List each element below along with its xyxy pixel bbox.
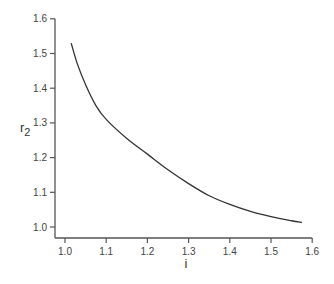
y-tick-label: 1.2: [33, 152, 47, 163]
x-axis: 1.01.11.21.31.41.51.6: [55, 238, 320, 257]
y-tick-label: 1.5: [33, 48, 47, 59]
x-tick-label: 1.1: [99, 246, 113, 257]
data-line: [71, 43, 302, 222]
x-axis-label: i: [185, 256, 188, 271]
y-tick-label: 1.1: [33, 187, 47, 198]
x-tick-label: 1.6: [305, 246, 319, 257]
x-tick-label: 1.2: [140, 246, 154, 257]
y-tick-label: 1.0: [33, 222, 47, 233]
y-tick-label: 1.4: [33, 83, 47, 94]
chart: 1.01.11.21.31.41.51.6 1.01.11.21.31.41.5…: [0, 0, 334, 284]
y-tick-label: 1.3: [33, 117, 47, 128]
x-tick-label: 1.0: [58, 246, 72, 257]
y-tick-label: 1.6: [33, 13, 47, 24]
x-tick-label: 1.5: [264, 246, 278, 257]
x-tick-label: 1.4: [223, 246, 237, 257]
y-axis-label: r2: [20, 120, 30, 138]
y-axis: 1.01.11.21.31.41.51.6: [33, 13, 55, 238]
